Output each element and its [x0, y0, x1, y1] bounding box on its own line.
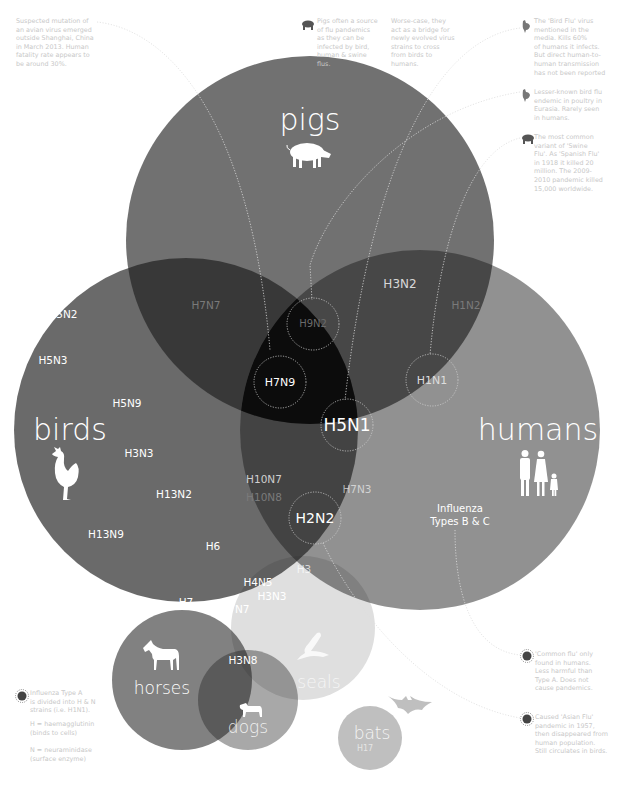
- note-h9n2: Lesser-known bird flu endemic in poultry…: [534, 88, 632, 122]
- note-legend: Influenza Type A is divided into H & N s…: [30, 689, 120, 715]
- note-pigs-source: Pigs often a source of flu pandemics as …: [317, 17, 387, 69]
- note-h7n9: Suspected mutation of an avian virus eme…: [16, 17, 101, 69]
- virus-icon-h2n2: [521, 713, 534, 726]
- strain-h13n2: H13N2: [156, 488, 192, 500]
- strain-h6: H6: [206, 540, 221, 552]
- note-legend-n: N = neuraminidase (surface enzyme): [30, 746, 120, 763]
- note-types-bc: 'Common flu' only found in humans. Less …: [535, 650, 632, 693]
- strain-h7n7-horses: H7N7: [220, 603, 249, 615]
- note-h1n1: The most common variant of 'Swine Flu'. …: [534, 133, 632, 193]
- strain-h2n2: H2N2: [296, 510, 335, 526]
- strain-h10n8: H10N8: [246, 491, 282, 503]
- rooster-note-icon-1: [523, 20, 530, 33]
- strain-h3: H3: [297, 563, 312, 575]
- main-host-circles: [14, 56, 600, 610]
- virus-icon-legend: [16, 690, 29, 703]
- bat-icon: [388, 696, 432, 714]
- strain-h10n7: H10N7: [246, 473, 282, 485]
- strain-h4n5: H4N5: [243, 576, 272, 588]
- rooster-note-icon-2: [523, 89, 530, 102]
- pig-note-icon: [302, 21, 314, 31]
- note-h5n1: The 'Bird Flu' virus mentioned in the me…: [534, 17, 632, 77]
- bats-label: bats: [354, 723, 391, 743]
- strain-h9n2: H9N2: [299, 318, 327, 329]
- note-legend-h: H = haemagglutinin (binds to cells): [30, 720, 120, 737]
- strain-h5n2: H5N2: [48, 308, 77, 320]
- note-pigs-bridge: Worse-case, they act as a bridge for new…: [391, 17, 463, 69]
- bats-strain: H17: [357, 744, 373, 753]
- birds-label: birds: [33, 412, 107, 447]
- dogs-label: dogs: [228, 717, 268, 737]
- humans-sublabel-2: Types B & C: [429, 516, 489, 527]
- humans-label: humans: [478, 412, 598, 447]
- strain-h3n3-birds: H3N3: [124, 447, 153, 459]
- strain-h5n1: H5N1: [323, 415, 370, 435]
- strain-h1n2: H1N2: [451, 299, 480, 311]
- pig-note-icon-2: [522, 135, 534, 145]
- strain-h7n7: H7N7: [191, 299, 220, 311]
- virus-icon-types-bc: [521, 650, 534, 663]
- strain-h3n8: H3N8: [228, 654, 257, 666]
- strain-h3n3-seals: H3N3: [257, 590, 286, 602]
- pigs-label: pigs: [279, 102, 340, 137]
- strain-h7n3: H7N3: [342, 483, 371, 495]
- horses-label: horses: [134, 678, 190, 698]
- strain-h13n9: H13N9: [88, 528, 124, 540]
- seals-label: seals: [297, 672, 340, 692]
- humans-sublabel-1: Influenza: [437, 503, 483, 514]
- strain-h5n9: H5N9: [112, 397, 141, 409]
- strain-h7: H7: [179, 596, 194, 608]
- strain-h7n9: H7N9: [265, 376, 296, 389]
- strain-h5n3: H5N3: [38, 354, 67, 366]
- strain-h3n2: H3N2: [383, 277, 416, 291]
- strain-h1n1: H1N1: [417, 374, 448, 387]
- note-h2n2: Caused 'Asian Flu' pandemic in 1957, the…: [535, 713, 632, 756]
